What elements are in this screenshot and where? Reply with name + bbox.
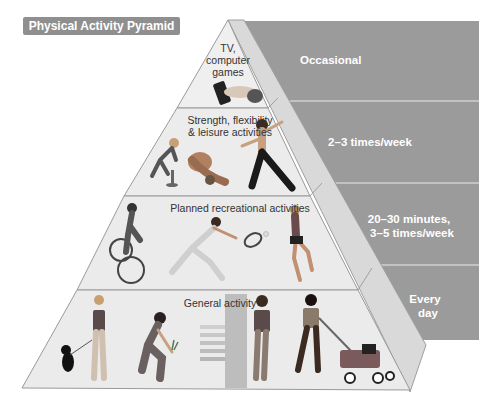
tier-3-activity-label: Planned recreational activities: [150, 202, 330, 214]
tier-1-frequency-label: Occasional: [300, 53, 420, 67]
tier-4-activity-label: General activity: [175, 297, 265, 309]
tier-4-frequency-label: Every day: [400, 292, 450, 320]
tier-2-frequency-label: 2–3 times/week: [300, 135, 440, 149]
tier-2-activity-label: Strength, flexibility & leisure activiti…: [170, 114, 290, 138]
tier-1-activity-label: TV, computer games: [200, 42, 256, 78]
tier-3-frequency-label: 20–30 minutes, 3–5 times/week: [344, 212, 474, 240]
